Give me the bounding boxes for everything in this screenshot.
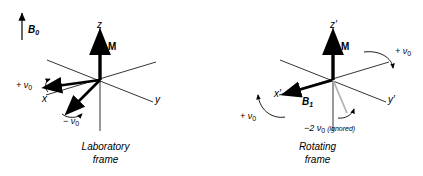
minus-nu0-label: − ν0 xyxy=(63,117,79,126)
y-prime-axis-label: y′ xyxy=(388,95,395,105)
x-axis-label: x xyxy=(42,94,47,104)
plus-nu0-bottom-label: + ν0 xyxy=(240,112,256,121)
x-prime-axis-label: x′ xyxy=(274,89,281,99)
rotating-frame-panel: z′ M x′ y′ B1 + ν0 + ν0 −2 ν0 (ignored) … xyxy=(212,0,423,176)
minus-2nu0-faint-arrow xyxy=(333,80,347,113)
laboratory-frame-caption: Laboratory frame xyxy=(0,140,211,166)
minus-2nu0-ignored-label: −2 ν0 (ignored) xyxy=(304,118,355,134)
y-axis-label: y xyxy=(155,95,160,105)
b1-field-arrow xyxy=(288,80,333,93)
m-label: M xyxy=(108,42,116,52)
nmr-reference-frames-figure: B0 z M x y + ν0 − ν0 Laboratory frame xyxy=(0,0,423,176)
plus-nu0-top-label: + ν0 xyxy=(395,47,411,56)
plus-nu0-label: + ν0 xyxy=(16,81,32,90)
z-prime-axis-label: z′ xyxy=(330,20,337,30)
b0-label: B0 xyxy=(28,25,39,35)
m-label: M xyxy=(341,42,349,52)
b1-label: B1 xyxy=(302,97,313,107)
laboratory-frame-panel: B0 z M x y + ν0 − ν0 Laboratory frame xyxy=(0,0,211,176)
plus-nu0-rotation-curve xyxy=(46,79,50,92)
z-axis-label: z xyxy=(97,20,102,30)
rotating-frame-caption: Rotating frame xyxy=(212,140,423,166)
